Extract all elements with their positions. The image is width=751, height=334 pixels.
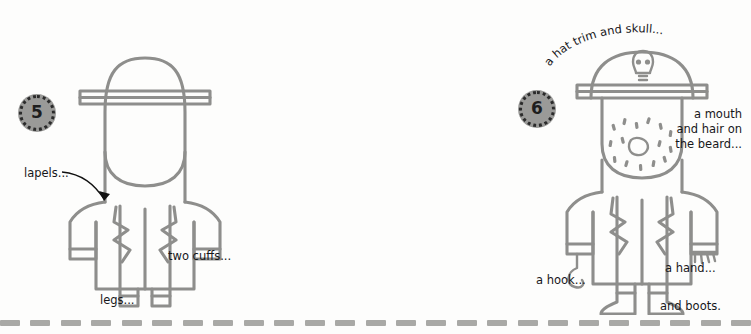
divider-dash: [335, 320, 355, 326]
divider-dash: [91, 320, 111, 326]
divider-dash: [366, 320, 386, 326]
divider-dash: [396, 320, 416, 326]
divider-dash: [426, 320, 446, 326]
page-root: 5: [0, 0, 751, 334]
divider-dash: [30, 320, 50, 326]
step-panel-5: 5: [0, 0, 250, 334]
step-badge-5: 5: [18, 94, 56, 132]
divider-dash: [305, 320, 325, 326]
divider-dash: [0, 320, 20, 326]
label-two-cuffs: two cuffs...: [168, 249, 231, 264]
divider-dash: [670, 320, 690, 326]
label-lapels: lapels...: [24, 166, 69, 181]
step-number-label: 5: [31, 104, 43, 121]
arrow-to-lapels: [60, 168, 122, 210]
divider-dash: [61, 320, 81, 326]
divider-dash: [609, 320, 629, 326]
step-panel-6: 6 a hat trim and skull...: [250, 0, 500, 334]
divider-dash: [457, 320, 477, 326]
divider-dash: [701, 320, 721, 326]
divider-dash: [731, 320, 751, 326]
divider-dash: [579, 320, 599, 326]
step-panel-7: 7 Fill in the hat, mouth and boots...: [500, 0, 751, 334]
bottom-dashed-divider: [0, 320, 751, 326]
divider-dash: [244, 320, 264, 326]
label-legs: legs...: [100, 293, 135, 308]
divider-dash: [274, 320, 294, 326]
divider-dash: [487, 320, 507, 326]
divider-dash: [518, 320, 538, 326]
divider-dash: [213, 320, 233, 326]
divider-dash: [640, 320, 660, 326]
divider-dash: [548, 320, 568, 326]
divider-dash: [122, 320, 142, 326]
divider-dash: [183, 320, 203, 326]
divider-dash: [152, 320, 172, 326]
